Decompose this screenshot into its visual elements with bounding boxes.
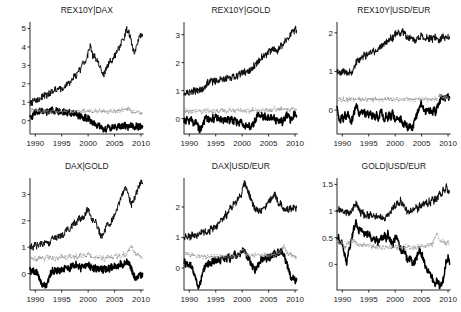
axis-lines <box>30 22 144 134</box>
axis-lines <box>337 178 451 290</box>
y-tick-label: 3 <box>22 61 27 70</box>
x-tick-label: 2005 <box>413 295 431 304</box>
x-tick-label: 1995 <box>53 139 71 148</box>
y-tick-label: 1 <box>22 98 27 107</box>
x-tick-label: 2010 <box>132 295 150 304</box>
x-tick-label: 1995 <box>360 295 378 304</box>
y-tick-label: 2 <box>175 203 180 212</box>
x-tick-label: 2010 <box>132 139 150 148</box>
series-line-upper <box>30 26 143 105</box>
y-tick-label: 2 <box>22 80 27 89</box>
y-tick-label: 0 <box>329 260 334 269</box>
y-tick-label: 4 <box>22 43 27 52</box>
series-line-upper <box>184 180 297 240</box>
chart-panel-6: GOLD|USD/EUR00.511.519901995200020052010 <box>307 156 461 312</box>
x-tick-label: 2005 <box>259 139 277 148</box>
x-tick-label: 2000 <box>387 139 405 148</box>
x-tick-label: 1995 <box>206 295 224 304</box>
y-tick-label: 3 <box>22 190 27 199</box>
series-line-dotted-band <box>184 106 297 114</box>
y-tick-label: 0 <box>175 264 180 273</box>
panel-title: REX10Y|DAX <box>61 5 114 15</box>
chart-panel-1: REX10Y|DAX01234519901995200020052010 <box>0 0 154 156</box>
x-tick-label: 1995 <box>360 139 378 148</box>
y-tick-label: 0 <box>22 270 27 279</box>
x-tick-label: 1990 <box>180 295 198 304</box>
chart-panel-5: DAX|USD/EUR01219901995200020052010 <box>154 156 308 312</box>
axis-lines <box>184 22 298 134</box>
y-tick-label: 2 <box>329 29 334 38</box>
y-tick-label: 0.5 <box>322 234 334 243</box>
x-tick-label: 2005 <box>259 295 277 304</box>
series-line-dotted-band <box>337 94 450 103</box>
y-tick-label: 1 <box>329 67 334 76</box>
panel-title: REX10Y|USD/EUR <box>358 5 431 15</box>
series-line-bold-lower <box>337 220 450 289</box>
chart-panel-3: REX10Y|USD/EUR01219901995200020052010 <box>307 0 461 156</box>
x-tick-label: 1990 <box>26 139 44 148</box>
panel-title: DAX|USD/EUR <box>212 161 270 171</box>
chart-panel-4: DAX|GOLD012319901995200020052010 <box>0 156 154 312</box>
x-tick-label: 1990 <box>334 139 352 148</box>
panel-title: REX10Y|GOLD <box>211 5 270 15</box>
x-tick-label: 1995 <box>206 139 224 148</box>
x-tick-label: 2005 <box>413 139 431 148</box>
x-tick-label: 1995 <box>53 295 71 304</box>
x-tick-label: 1990 <box>334 295 352 304</box>
y-tick-label: 1 <box>175 234 180 243</box>
y-tick-label: 0 <box>22 117 27 126</box>
x-tick-label: 2000 <box>79 139 97 148</box>
chart-panel-grid: REX10Y|DAX01234519901995200020052010REX1… <box>0 0 461 312</box>
x-tick-label: 2010 <box>286 139 304 148</box>
series-line-upper <box>337 29 450 76</box>
y-tick-label: 1 <box>175 87 180 96</box>
series-line-bold-lower <box>30 259 143 288</box>
x-tick-label: 2010 <box>286 295 304 304</box>
y-tick-label: 1.5 <box>322 180 334 189</box>
y-tick-label: 1 <box>329 207 334 216</box>
panel-title: DAX|GOLD <box>65 161 109 171</box>
series-line-bold-lower <box>184 248 297 289</box>
x-tick-label: 2000 <box>233 139 251 148</box>
x-tick-label: 2000 <box>79 295 97 304</box>
y-tick-label: 2 <box>175 59 180 68</box>
y-tick-label: 0 <box>329 106 334 115</box>
chart-panel-2: REX10Y|GOLD012319901995200020052010 <box>154 0 308 156</box>
x-tick-label: 2010 <box>439 139 457 148</box>
x-tick-label: 1990 <box>26 295 44 304</box>
x-tick-label: 2010 <box>439 295 457 304</box>
series-line-bold-lower <box>184 111 297 133</box>
y-tick-label: 2 <box>22 217 27 226</box>
panel-title: GOLD|USD/EUR <box>362 161 427 171</box>
series-line-upper <box>337 184 450 221</box>
y-tick-label: 3 <box>175 31 180 40</box>
y-tick-label: 0 <box>175 115 180 124</box>
series-line-upper <box>184 26 297 96</box>
x-tick-label: 2000 <box>387 295 405 304</box>
y-tick-label: 1 <box>22 243 27 252</box>
axis-lines <box>30 178 144 290</box>
y-tick-label: 5 <box>22 24 27 33</box>
series-line-dotted-band <box>30 245 143 262</box>
x-tick-label: 1990 <box>180 139 198 148</box>
x-tick-label: 2000 <box>233 295 251 304</box>
x-tick-label: 2005 <box>106 139 124 148</box>
x-tick-label: 2005 <box>106 295 124 304</box>
series-line-upper <box>30 180 143 251</box>
